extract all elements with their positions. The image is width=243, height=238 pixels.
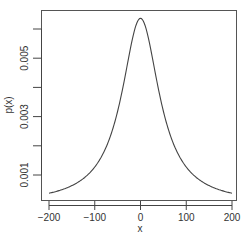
x-tick-label: −200 xyxy=(38,212,61,223)
x-tick-label: 0 xyxy=(138,212,144,223)
x-tick-label: −100 xyxy=(83,212,106,223)
y-axis: 0.0010.0030.005 xyxy=(19,29,42,188)
x-axis-title: x xyxy=(138,223,143,234)
chart: −200−1000100200 0.0010.0030.005 x p(x) xyxy=(0,0,243,238)
x-axis: −200−1000100200 xyxy=(38,201,241,223)
density-curve xyxy=(49,18,232,193)
x-tick-label: 100 xyxy=(178,212,195,223)
y-tick-label: 0.001 xyxy=(19,162,30,187)
y-axis-title: p(x) xyxy=(3,96,14,113)
x-tick-label: 200 xyxy=(224,212,241,223)
plot-box xyxy=(42,11,237,201)
y-tick-label: 0.005 xyxy=(19,45,30,70)
y-tick-label: 0.003 xyxy=(19,104,30,129)
